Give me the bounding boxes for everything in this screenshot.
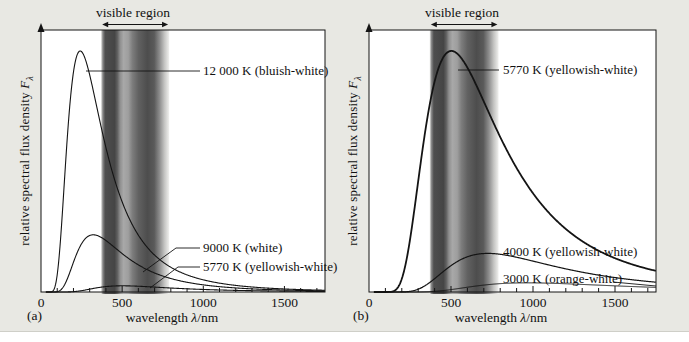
x-axis-title-units: /nm — [526, 310, 547, 325]
x-axis-title-text: wavelength — [455, 310, 521, 325]
curve-label-5770K-b: 5770 K (yellowish-white) — [503, 63, 637, 77]
visible-region-label-a: visible region — [96, 5, 170, 21]
visible-region-label-b: visible region — [425, 5, 499, 21]
y-axis-title-text: relative spectral flux density — [345, 89, 360, 246]
arrow-right-head — [162, 22, 168, 28]
x-axis-title-b: wavelength λ/nm — [455, 310, 547, 326]
flux-symbol: F — [345, 81, 360, 89]
x-axis-title-a: wavelength λ/nm — [126, 310, 218, 326]
x-axis-title-text: wavelength — [126, 310, 192, 325]
curve-label-3000K: 3000 K (orange-white) — [503, 272, 622, 286]
y-axis-arrow — [38, 23, 45, 32]
flux-symbol: F — [17, 81, 32, 89]
panel-letter-b: (b) — [353, 308, 369, 324]
y-axis-title-a: relative spectral flux density Fλ — [17, 76, 34, 246]
curve-label-12000K: 12 000 K (bluish-white) — [203, 64, 328, 78]
arrow-left-head — [431, 22, 437, 28]
curve-label-5770K-a: 5770 K (yellowish-white) — [203, 260, 337, 274]
panel-letter-a: (a) — [27, 308, 42, 324]
x-tick-label: 1500 — [602, 295, 629, 310]
x-tick-label: 1000 — [520, 295, 547, 310]
y-axis-title-text: relative spectral flux density — [17, 89, 32, 246]
x-tick-label: 1500 — [271, 295, 298, 310]
x-tick-label: 500 — [112, 295, 133, 310]
arrow-left-head — [102, 22, 108, 28]
curve-label-9000K: 9000 K (white) — [203, 241, 282, 255]
arrow-right-head — [491, 22, 497, 28]
blackbody-spectra-figure: 050010001500050010001500 visible region … — [0, 0, 689, 342]
lambda-subscript: λ — [352, 76, 363, 80]
y-axis-title-b: relative spectral flux density Fλ — [345, 76, 362, 246]
curve-label-4000K: 4000 K (yellowish-white) — [503, 245, 637, 259]
x-tick-label: 1000 — [190, 295, 217, 310]
lambda-subscript: λ — [24, 76, 35, 80]
y-axis-arrow — [366, 23, 373, 32]
x-axis-title-units: /nm — [197, 310, 218, 325]
x-tick-label: 500 — [441, 295, 462, 310]
visible-region-band — [101, 30, 169, 294]
